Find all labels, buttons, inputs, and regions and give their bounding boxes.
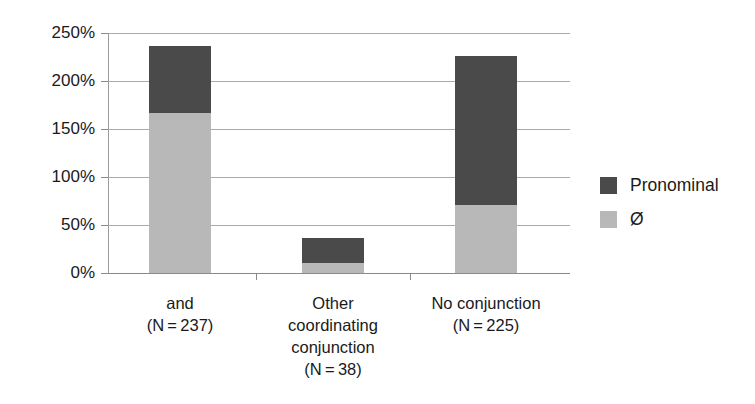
x-axis-category-label: Othercoordinatingconjunction(N = 38)	[248, 292, 418, 380]
legend-swatch-zero	[600, 211, 617, 228]
y-axis-tick-label: 0%	[31, 264, 95, 281]
x-axis-category-label-line: conjunction	[248, 336, 418, 358]
y-axis-tick-mark	[101, 225, 108, 226]
bar-segment-pronominal[interactable]	[149, 46, 211, 113]
x-axis-category-label-line: No conjunction	[401, 292, 571, 314]
x-axis-tick-mark	[256, 273, 257, 280]
y-axis-line	[108, 33, 109, 273]
legend-item[interactable]: Pronominal	[600, 168, 719, 202]
bar-segment-zero[interactable]	[302, 263, 364, 273]
bar-segment-zero[interactable]	[455, 205, 517, 273]
x-axis-tick-mark	[410, 273, 411, 280]
x-axis-category-label-line: and	[95, 292, 265, 314]
y-axis-tick-label: 50%	[31, 216, 95, 233]
chart-legend: PronominalØ	[600, 168, 719, 236]
bar-stack[interactable]	[149, 46, 211, 274]
x-axis-category-label: No conjunction(N = 225)	[401, 292, 571, 336]
y-axis-tick-mark	[101, 33, 108, 34]
stacked-bar-chart: 0%50%100%150%200%250% and(N = 237)Otherc…	[0, 0, 755, 404]
legend-item[interactable]: Ø	[600, 202, 719, 236]
legend-label: Pronominal	[630, 176, 719, 194]
bar-segment-zero[interactable]	[149, 113, 211, 273]
y-axis-tick-label: 200%	[31, 72, 95, 89]
bar-segment-pronominal[interactable]	[455, 56, 517, 205]
x-axis-category-label-line: (N = 38)	[248, 358, 418, 380]
y-axis-tick-label: 250%	[31, 24, 95, 41]
x-axis-category-label-line: Other	[248, 292, 418, 314]
y-axis-tick-label: 100%	[31, 168, 95, 185]
x-axis-category-label-line: (N = 225)	[401, 314, 571, 336]
x-axis-category-label: and(N = 237)	[95, 292, 265, 336]
y-axis-tick-label: 150%	[31, 120, 95, 137]
legend-swatch-pronominal	[600, 177, 617, 194]
bar-stack[interactable]	[302, 238, 364, 274]
x-axis-category-label-line: (N = 237)	[95, 314, 265, 336]
x-axis-line	[108, 273, 570, 274]
y-axis-tick-mark	[101, 177, 108, 178]
y-axis-tick-mark	[101, 81, 108, 82]
bar-segment-pronominal[interactable]	[302, 238, 364, 264]
y-axis-tick-mark	[101, 273, 108, 274]
bar-stack[interactable]	[455, 56, 517, 273]
x-axis-category-label-line: coordinating	[248, 314, 418, 336]
y-axis-tick-mark	[101, 129, 108, 130]
legend-label: Ø	[630, 210, 644, 228]
gridline	[108, 33, 570, 34]
plot-area	[108, 33, 570, 273]
